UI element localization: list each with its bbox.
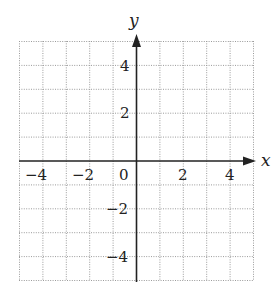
y-axis-arrow-icon [132, 34, 141, 47]
y-axis-label: y [128, 10, 139, 30]
coordinate-plane: y x −4 −2 0 2 4 4 2 −2 −4 [0, 0, 276, 287]
x-tick-label: 2 [178, 166, 188, 184]
y-tick-label: 4 [120, 57, 130, 75]
y-tick-label: −2 [106, 200, 128, 218]
origin-label: 0 [119, 166, 129, 184]
axes [19, 34, 256, 282]
y-tick-label: −4 [106, 248, 128, 266]
x-tick-label: −4 [25, 166, 47, 184]
x-axis-arrow-icon [243, 157, 256, 166]
x-tick-label: 4 [225, 166, 235, 184]
y-tick-label: 2 [120, 104, 130, 122]
x-tick-label: −2 [72, 166, 94, 184]
x-axis-label: x [261, 150, 271, 170]
